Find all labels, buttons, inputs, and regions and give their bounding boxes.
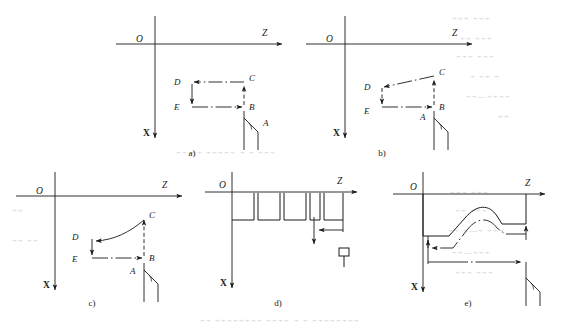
panel-caption-d: d) [258, 298, 298, 308]
toolpath-d [314, 217, 343, 244]
point-label-b-D: D [363, 82, 371, 92]
panel-e: O Z X e) [385, 170, 579, 330]
x-axis-label-c: X [43, 280, 50, 290]
page-bleed-through: ⌁⌁ [498, 112, 510, 121]
point-label-b-E: E [363, 106, 370, 116]
point-label-a-E: E [173, 102, 180, 112]
toolpath-e [428, 220, 526, 264]
panel-c: O Z X D E C B A c) [10, 170, 200, 330]
toolpath-a [192, 82, 244, 107]
point-label-a-C: C [249, 73, 256, 83]
point-label-a-D: D [173, 77, 181, 87]
groove-profile-d [232, 193, 343, 220]
point-label-c-C: C [149, 210, 156, 220]
point-label-b-C: C [439, 67, 446, 77]
point-label-c-D: D [71, 232, 79, 242]
origin-label-b: O [326, 34, 333, 44]
point-label-c-B: B [149, 253, 155, 263]
point-label-b-A: A [419, 112, 426, 122]
panel-caption-a: a) [172, 148, 212, 158]
origin-label-a: O [136, 34, 143, 44]
origin-label-d: O [219, 180, 226, 190]
z-axis-label-e: Z [525, 178, 531, 188]
origin-label-c: O [36, 186, 43, 196]
toolpath-b [382, 76, 434, 107]
cutting-tool-icon-e [526, 262, 540, 306]
z-axis-label-a: Z [262, 28, 268, 38]
panel-caption-c: c) [72, 298, 112, 308]
x-axis-label-b: X [333, 128, 340, 138]
z-axis-label-c: Z [162, 180, 168, 190]
origin-label-e: O [410, 182, 417, 192]
z-axis-label-d: Z [337, 176, 343, 186]
panel-b: O Z X D E C B A b) [300, 10, 490, 170]
x-axis-label-d: X [220, 278, 227, 288]
cutting-tool-icon-c [144, 263, 158, 302]
cutting-tool-icon-d [339, 248, 349, 267]
point-label-c-A: A [129, 266, 136, 276]
figure-toolpath-diagrams: ⌁⌁⌁ ⌁⌁⌁ ⌁⌁ ⌁⌁⌁ ⌁⌁⌁ ⌁⌁⌁ ⌁ ⌁⌁ ⌁ ⌁⌁—⌁⌁⌁⌁ ⌁⌁… [0, 0, 579, 335]
cutting-tool-icon-b [434, 111, 448, 150]
point-label-a-B: B [249, 102, 255, 112]
workpiece-contour-e [423, 194, 526, 236]
x-axis-label-a: X [143, 128, 150, 138]
toolpath-c [92, 220, 144, 258]
panel-caption-b: b) [362, 148, 402, 158]
cutting-tool-icon-a [244, 111, 258, 150]
z-axis-label-b: Z [452, 28, 458, 38]
panel-caption-e: e) [448, 298, 488, 308]
point-label-c-E: E [71, 254, 78, 264]
point-label-b-B: B [439, 102, 445, 112]
panel-a: O Z X D E C B A a) [110, 10, 300, 170]
panel-d: O Z X d) [195, 170, 390, 330]
point-label-a-A: A [262, 118, 269, 128]
x-axis-label-e: X [411, 282, 418, 292]
